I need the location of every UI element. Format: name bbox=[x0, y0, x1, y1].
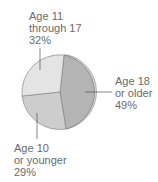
label-percent: 29% bbox=[14, 166, 67, 178]
label-line: or younger bbox=[14, 154, 67, 166]
slice-age-10-or-younger bbox=[22, 92, 66, 130]
slice-age-11-through-17 bbox=[22, 55, 64, 96]
label-percent: 49% bbox=[115, 99, 152, 111]
label-line: through 17 bbox=[29, 22, 82, 34]
label-age-11-through-17: Age 11 through 17 32% bbox=[29, 10, 82, 46]
label-line: or older bbox=[115, 87, 152, 99]
label-percent: 32% bbox=[29, 34, 82, 46]
label-line: Age 10 bbox=[14, 142, 67, 154]
label-line: Age 18 bbox=[115, 75, 152, 87]
label-line: Age 11 bbox=[29, 10, 82, 22]
label-age-10-or-younger: Age 10 or younger 29% bbox=[14, 142, 67, 178]
label-age-18-or-older: Age 18 or older 49% bbox=[115, 75, 152, 111]
